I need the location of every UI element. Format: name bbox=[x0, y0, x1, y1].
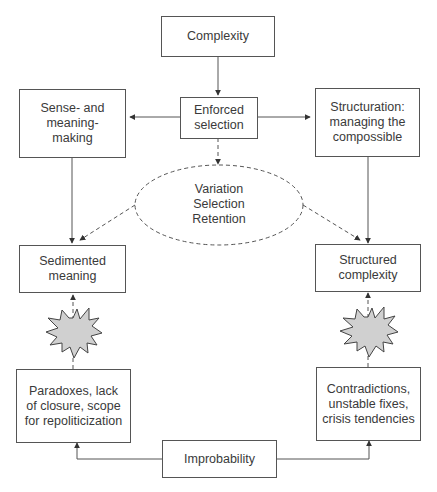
node-structuration: Structuration: managing the compossible bbox=[315, 88, 420, 157]
node-improbability: Improbability bbox=[162, 440, 277, 478]
node-enforced-selection: Enforced selection bbox=[180, 97, 258, 139]
node-paradoxes: Paradoxes, lack of closure, scope for re… bbox=[16, 369, 131, 443]
edge-improbability-to-paradoxes bbox=[77, 443, 163, 459]
starburst-left-icon bbox=[46, 308, 102, 358]
node-sedimented-meaning: Sedimented meaning bbox=[19, 245, 126, 293]
edge-vsr-to-sedimented bbox=[80, 205, 135, 240]
node-contradictions: Contradictions, unstable fixes, crisis t… bbox=[316, 367, 421, 441]
edge-improbability-to-contradictions bbox=[276, 441, 369, 459]
node-structured-complexity: Structured complexity bbox=[315, 244, 421, 292]
edge-vsr-to-structured bbox=[303, 205, 360, 240]
node-variation-selection-retention: Variation Selection Retention bbox=[159, 182, 279, 227]
node-complexity: Complexity bbox=[161, 16, 275, 57]
node-sense-meaning-making: Sense- and meaning- making bbox=[19, 89, 126, 158]
starburst-right-icon bbox=[340, 307, 398, 357]
